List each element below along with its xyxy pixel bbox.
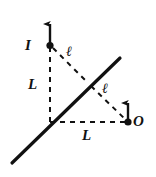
object-point-dot: [124, 118, 131, 125]
slant-distance-label-top: ℓ: [66, 45, 72, 59]
figure-canvas: [0, 0, 156, 177]
image-point-label: I: [25, 38, 31, 53]
slant-distance-line-bottom: [91, 86, 126, 120]
vertical-distance-label: L: [28, 77, 37, 92]
object-point-label: O: [133, 114, 144, 129]
mirror-line: [12, 58, 120, 163]
physics-figure: I O L L ℓ ℓ: [0, 0, 156, 177]
slant-distance-label-bottom: ℓ: [102, 82, 108, 96]
image-point-dot: [46, 42, 53, 49]
horizontal-distance-label: L: [82, 128, 91, 143]
